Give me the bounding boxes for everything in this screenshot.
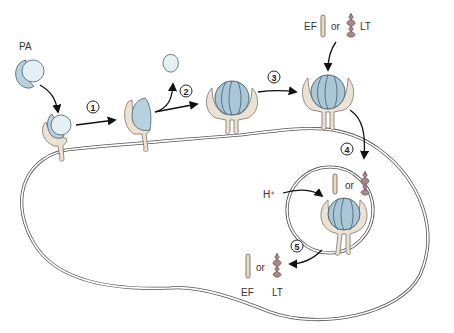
endosome-pore-complex [321,198,367,255]
ef-rod-icon [321,15,325,37]
step-4-marker: 4 [341,143,353,155]
pa20-fragment-icon [163,54,178,72]
arrow-ligand-binding [328,42,336,70]
lt-coil-cytosol-icon [273,254,281,277]
lt-label-top: LT [360,21,371,32]
pa-free-icon [16,60,44,88]
ef-label-bottom: EF [241,287,254,298]
diagram-canvas: PA 1 2 3 EF or LT [0,0,454,333]
or-label-top: or [331,21,341,32]
prepore-ligand-complex [302,75,353,130]
step-5-marker: 5 [291,240,303,252]
step-2-marker: 2 [180,85,192,97]
arrow-step-2-release [155,84,173,112]
lt-label-bottom: LT [272,287,283,298]
svg-text:1: 1 [90,103,95,113]
svg-text:4: 4 [344,145,349,155]
cell-membrane [22,128,428,319]
svg-text:2: 2 [183,87,188,97]
or-label-bottom: or [256,262,266,273]
lt-coil-icon [347,14,355,37]
proton-label: H⁺ [263,189,275,200]
arrow-step-3 [258,91,296,93]
svg-text:3: 3 [271,73,276,83]
pa-label: PA [19,41,32,52]
svg-text:5: 5 [294,242,299,252]
step-3-marker: 3 [268,71,280,83]
ef-rod-endosome-icon [333,174,337,194]
ef-label-top: EF [304,21,317,32]
arrow-pa-binding [40,85,58,112]
or-label-endosome: or [345,180,355,191]
step-1-marker: 1 [87,101,99,113]
arrow-step-1 [76,120,115,125]
prepore-complex [206,81,257,134]
arrow-step-2-oligomerize [155,104,197,112]
ef-rod-cytosol-icon [246,254,250,278]
